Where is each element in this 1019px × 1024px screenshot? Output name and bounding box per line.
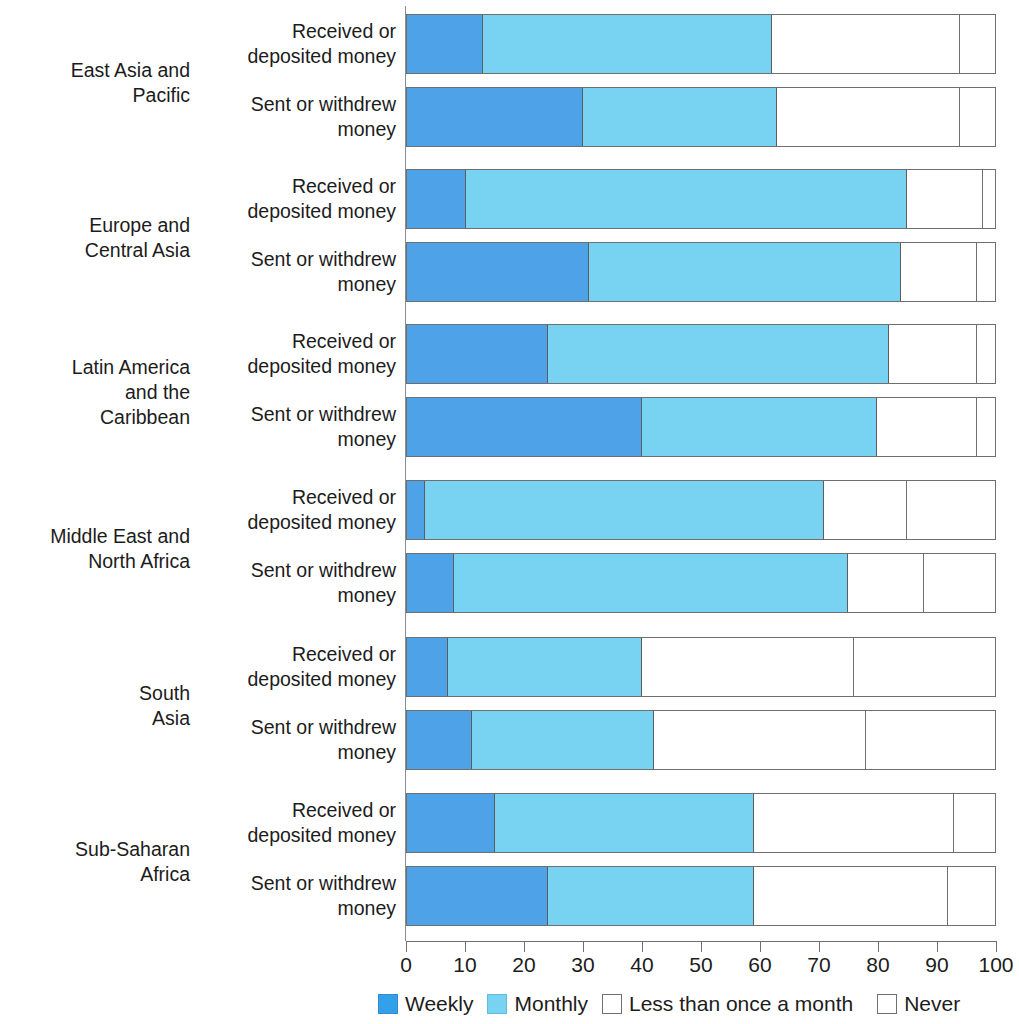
x-axis-tick-label: 10 [453, 953, 476, 977]
bar-row-label: Received or deposited money [196, 485, 396, 535]
bar-row-label: Received or deposited money [196, 329, 396, 379]
bar-segment-monthly [448, 638, 642, 696]
x-axis-tick-label: 20 [512, 953, 535, 977]
x-axis-tick-label: 80 [866, 953, 889, 977]
legend-label: Less than once a month [629, 992, 853, 1016]
bar-row-label: Sent or withdrew money [196, 558, 396, 608]
x-axis-tick-label: 40 [630, 953, 653, 977]
bar-row: Received or deposited money [0, 169, 1019, 229]
bar-segment-less [848, 554, 924, 612]
x-axis-tick [465, 941, 466, 952]
bar-segment-weekly [407, 88, 583, 146]
x-axis-tick [819, 941, 820, 952]
bar-segment-never [924, 554, 995, 612]
legend-swatch-never-icon [877, 994, 897, 1014]
bar-track [406, 480, 996, 540]
bar-segment-weekly [407, 170, 466, 228]
bar-segment-monthly [483, 15, 771, 73]
x-axis-tick [937, 941, 938, 952]
bar-segment-never [960, 88, 995, 146]
chart-legend: WeeklyMonthlyLess than once a monthNever [378, 989, 1019, 1019]
bar-segment-weekly [407, 15, 483, 73]
legend-label: Weekly [405, 992, 473, 1016]
bar-row-label: Received or deposited money [196, 798, 396, 848]
plot-area: East Asia and PacificReceived or deposit… [0, 0, 1019, 1024]
bar-segment-less [754, 867, 948, 925]
bar-row: Sent or withdrew money [0, 397, 1019, 457]
bar-segment-never [866, 711, 995, 769]
legend-item-never[interactable]: Never [877, 992, 960, 1016]
legend-item-weekly[interactable]: Weekly [378, 992, 473, 1016]
x-axis-tick-label: 90 [925, 953, 948, 977]
bar-row-label: Sent or withdrew money [196, 871, 396, 921]
x-axis-tick-label: 30 [571, 953, 594, 977]
legend-item-monthly[interactable]: Monthly [487, 992, 588, 1016]
bar-segment-never [854, 638, 995, 696]
bar-segment-weekly [407, 554, 454, 612]
bar-segment-less [877, 398, 977, 456]
bar-segment-weekly [407, 325, 548, 383]
bar-segment-never [977, 398, 995, 456]
x-axis-tick [642, 941, 643, 952]
x-axis-tick-label: 100 [978, 953, 1013, 977]
bar-track [406, 87, 996, 147]
bar-segment-monthly [454, 554, 848, 612]
bar-row: Received or deposited money [0, 480, 1019, 540]
bar-segment-weekly [407, 711, 472, 769]
region-group: Latin America and the CaribbeanReceived … [0, 324, 1019, 457]
bar-segment-weekly [407, 867, 548, 925]
region-group: Middle East and North AfricaReceived or … [0, 480, 1019, 613]
bar-segment-less [654, 711, 866, 769]
bar-segment-monthly [583, 88, 777, 146]
bar-segment-never [983, 170, 995, 228]
bar-row: Sent or withdrew money [0, 242, 1019, 302]
bar-row-label: Sent or withdrew money [196, 92, 396, 142]
x-axis-tick [406, 941, 407, 952]
stacked-bar-chart: East Asia and PacificReceived or deposit… [0, 0, 1019, 1024]
bar-segment-less [777, 88, 959, 146]
region-group: Sub-Saharan AfricaReceived or deposited … [0, 793, 1019, 926]
bar-row: Sent or withdrew money [0, 553, 1019, 613]
bar-track [406, 242, 996, 302]
x-axis-tick [996, 941, 997, 952]
legend-item-less[interactable]: Less than once a month [602, 992, 853, 1016]
bar-segment-never [977, 325, 995, 383]
x-axis-tick-label: 70 [807, 953, 830, 977]
bar-segment-weekly [407, 794, 495, 852]
bar-segment-less [642, 638, 854, 696]
bar-row: Received or deposited money [0, 14, 1019, 74]
bar-track [406, 866, 996, 926]
bar-track [406, 637, 996, 697]
bar-segment-weekly [407, 638, 448, 696]
bar-segment-weekly [407, 243, 589, 301]
bar-segment-never [907, 481, 995, 539]
bar-segment-monthly [425, 481, 825, 539]
bar-segment-never [977, 243, 995, 301]
x-axis-tick [524, 941, 525, 952]
bar-segment-never [954, 794, 995, 852]
x-axis-tick [701, 941, 702, 952]
bar-row: Sent or withdrew money [0, 710, 1019, 770]
bar-row-label: Sent or withdrew money [196, 402, 396, 452]
bar-row: Sent or withdrew money [0, 866, 1019, 926]
x-axis-tick [583, 941, 584, 952]
bar-segment-monthly [466, 170, 907, 228]
bar-segment-never [960, 15, 995, 73]
bar-row-label: Sent or withdrew money [196, 247, 396, 297]
bar-track [406, 397, 996, 457]
x-axis-tick-label: 0 [400, 953, 412, 977]
legend-swatch-weekly-icon [378, 994, 398, 1014]
bar-row-label: Received or deposited money [196, 642, 396, 692]
bar-segment-monthly [495, 794, 754, 852]
bar-segment-less [907, 170, 983, 228]
bar-segment-less [901, 243, 977, 301]
bar-track [406, 710, 996, 770]
bar-row: Sent or withdrew money [0, 87, 1019, 147]
bar-segment-never [948, 867, 995, 925]
bar-segment-monthly [472, 711, 654, 769]
bar-track [406, 793, 996, 853]
bar-track [406, 14, 996, 74]
bar-segment-less [772, 15, 960, 73]
bar-segment-monthly [548, 325, 889, 383]
x-axis-tick-label: 50 [689, 953, 712, 977]
